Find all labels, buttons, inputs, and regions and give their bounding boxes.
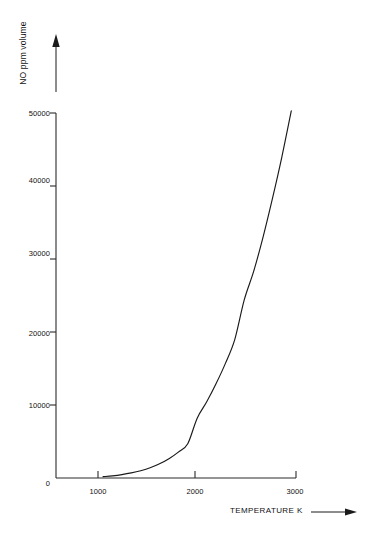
x-axis-ticks bbox=[98, 471, 296, 478]
y-tick-label-30000: 30000 bbox=[0, 249, 50, 258]
y-tick-label-10000: 10000 bbox=[0, 401, 50, 410]
x-tick-label-2000: 2000 bbox=[175, 487, 215, 496]
y-tick-label-40000: 40000 bbox=[0, 176, 50, 185]
plot-canvas bbox=[0, 0, 367, 545]
y-axis-arrow-icon bbox=[52, 34, 59, 92]
x-tick-label-1000: 1000 bbox=[78, 487, 118, 496]
y-axis-title: NO ppm volume bbox=[18, 7, 28, 99]
y-axis-ticks bbox=[50, 113, 56, 405]
data-series-line bbox=[103, 111, 291, 477]
y-tick-label-50000: 50000 bbox=[0, 109, 50, 118]
x-axis-arrow-icon bbox=[311, 508, 357, 515]
y-tick-label-20000: 20000 bbox=[0, 329, 50, 338]
y-tick-label-0: 0 bbox=[0, 479, 50, 488]
x-tick-label-3000: 3000 bbox=[275, 487, 315, 496]
x-axis-title: TEMPERATURE K bbox=[230, 506, 303, 515]
chart-figure: NO ppm volume TEMPERATURE K 50000 40000 … bbox=[0, 0, 367, 545]
